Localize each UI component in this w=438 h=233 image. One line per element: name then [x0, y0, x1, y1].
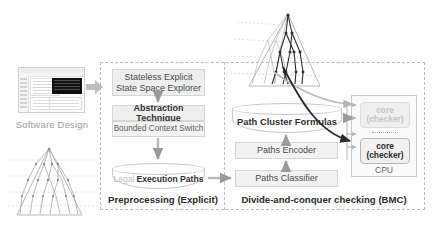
- bounded-context-switch-box[interactable]: Bounded Context Switch: [112, 121, 205, 137]
- legal-paths-label: Legal Execution Paths: [112, 171, 205, 187]
- cpu-core-separator: [372, 132, 398, 133]
- explorer-line-2: State Space Explorer: [116, 83, 201, 93]
- software-design-label: Software Design: [6, 119, 98, 130]
- paths-classifier-box[interactable]: Paths Classifier: [235, 170, 338, 187]
- thumb-console-panel: [52, 78, 82, 94]
- cpu-label: CPU: [352, 165, 416, 175]
- legal-paths-soft-text: Legal: [114, 174, 135, 184]
- state-space-explorer-box[interactable]: Stateless Explicit State Space Explorer: [112, 69, 205, 96]
- preprocessing-caption: Preprocessing (Explicit): [104, 194, 222, 205]
- thumb-divider: [49, 98, 50, 109]
- path-cluster-formulas-label: Path Cluster Formulas: [232, 111, 342, 131]
- figure-canvas: Software Design Stateless Explicit State…: [0, 0, 438, 233]
- path-cluster-formulas-store[interactable]: Path Cluster Formulas: [232, 103, 342, 133]
- pipeline-stage-divider: [224, 62, 225, 210]
- execution-path-tree-plain: [8, 148, 104, 215]
- explorer-line-1: Stateless Explicit: [124, 72, 192, 82]
- cpu-panel: core (checker) core (checker) CPU: [351, 95, 417, 177]
- legal-paths-bold-text: Execution Paths: [135, 174, 204, 184]
- thumb-sidebar: [19, 76, 29, 112]
- core-label-line-2: (checker): [366, 115, 403, 124]
- legal-execution-paths-store[interactable]: Legal Execution Paths: [112, 163, 205, 189]
- divide-and-conquer-caption: Divide-and-conquer checking (BMC): [228, 194, 420, 205]
- abstraction-technique-box[interactable]: Abstraction Technique: [112, 105, 205, 121]
- thumb-lower-panel: [30, 97, 82, 110]
- core-label-line-2: (checker): [366, 151, 403, 160]
- cpu-core-inactive[interactable]: core (checker): [360, 102, 410, 128]
- paths-encoder-box[interactable]: Paths Encoder: [235, 142, 338, 159]
- software-design-screenshot: [18, 67, 85, 113]
- cpu-core-active[interactable]: core (checker): [360, 138, 410, 164]
